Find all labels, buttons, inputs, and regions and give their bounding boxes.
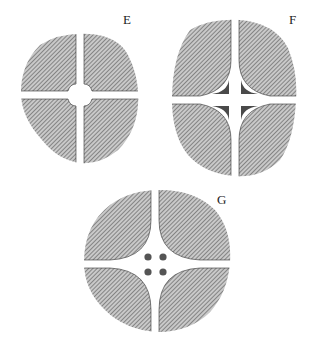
- dot-bottom-right: [159, 268, 166, 275]
- dot-top-left: [144, 253, 151, 260]
- panel-label-e: E: [123, 12, 131, 28]
- figure-canvas: [0, 0, 312, 349]
- panel-f: [150, 0, 312, 200]
- panel-e: [0, 0, 200, 200]
- dot-bottom-left: [144, 268, 151, 275]
- center-hole: [70, 85, 90, 105]
- panel-label-g: G: [217, 192, 226, 208]
- dot-top-right: [159, 253, 166, 260]
- panel-label-f: F: [289, 12, 296, 28]
